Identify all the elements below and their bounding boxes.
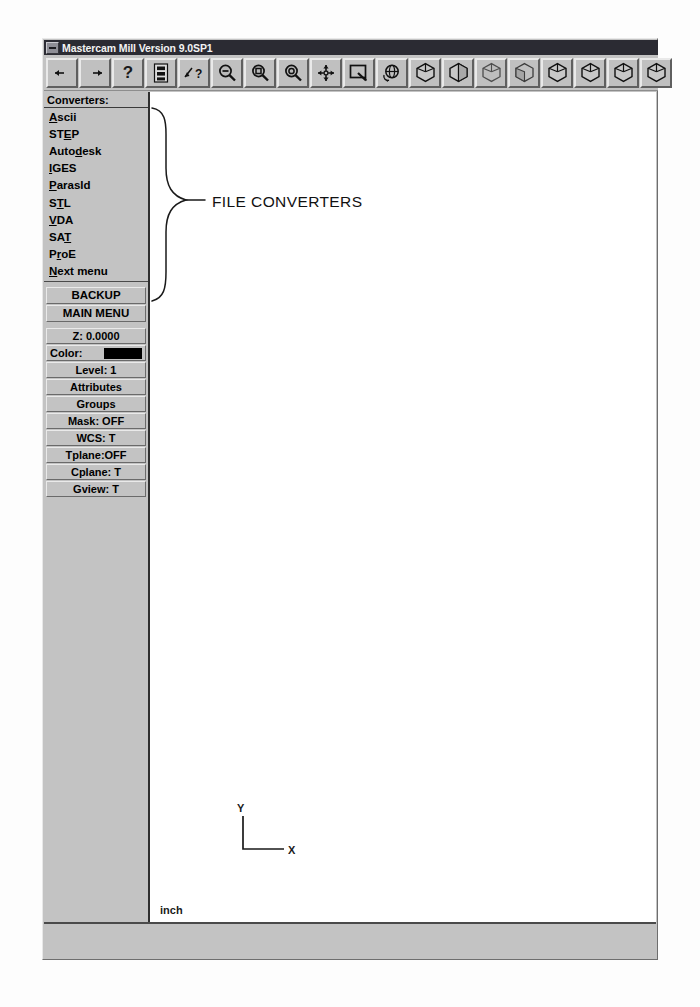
- status-z-depth[interactable]: Z: 0.0000: [46, 328, 146, 344]
- cube-isometric-icon: [415, 62, 436, 83]
- status-cplane[interactable]: Cplane: T: [46, 464, 146, 480]
- view-left-button[interactable]: [607, 58, 639, 88]
- context-help-button[interactable]: ?: [178, 58, 210, 88]
- help-pointer-icon: ?: [183, 64, 205, 82]
- magnifier-target-icon: [283, 63, 303, 83]
- four-way-arrow-icon: [316, 63, 336, 83]
- zoom-out-button[interactable]: [211, 58, 243, 88]
- view-bottom-button[interactable]: [508, 58, 540, 88]
- menu-item-label: Ascii: [49, 111, 77, 123]
- right-arrow-icon: [87, 67, 103, 79]
- cube-top-icon: [547, 62, 568, 83]
- status-wcs[interactable]: WCS: T: [46, 430, 146, 446]
- magnifier-minus-icon: [217, 63, 237, 83]
- menu-item-label: Autodesk: [49, 145, 101, 157]
- axis-lines-icon: [235, 802, 305, 864]
- menu-item-iges[interactable]: IGES: [44, 160, 148, 177]
- axis-gnomon: Y X: [235, 802, 305, 864]
- toolbar: ? ?: [44, 55, 658, 91]
- menu-item-label: Next menu: [49, 265, 108, 277]
- document-list-icon: [153, 63, 169, 83]
- menu-item-label: ProE: [49, 248, 76, 260]
- menu-item-proe[interactable]: ProE: [44, 246, 148, 263]
- status-mask[interactable]: Mask: OFF: [46, 413, 146, 429]
- svg-text:?: ?: [195, 67, 202, 81]
- view-isometric-button[interactable]: [409, 58, 441, 88]
- menu-item-stl[interactable]: STL: [44, 194, 148, 211]
- menu-item-step[interactable]: STEP: [44, 125, 148, 142]
- menu-item-label: VDA: [49, 214, 73, 226]
- bottom-status-bar: [44, 922, 656, 958]
- main-menu-button[interactable]: MAIN MENU: [46, 305, 146, 322]
- backup-button[interactable]: BACKUP: [46, 287, 146, 304]
- status-groups[interactable]: Groups: [46, 396, 146, 412]
- menu-item-label: STL: [49, 197, 71, 209]
- menu-item-parasld[interactable]: Parasld: [44, 177, 148, 194]
- dynamic-rotate-button[interactable]: [376, 58, 408, 88]
- status-color[interactable]: Color:: [46, 345, 146, 361]
- converter-menu-list: Ascii STEP Autodesk IGES Parasld STL VDA…: [44, 108, 148, 282]
- menu-item-ascii[interactable]: Ascii: [44, 108, 148, 125]
- status-gview[interactable]: Gview: T: [46, 481, 146, 497]
- help-button[interactable]: ?: [112, 58, 144, 88]
- screen-repaint-icon: [349, 64, 369, 82]
- menu-item-label: STEP: [49, 128, 79, 140]
- cube-left-icon: [613, 62, 634, 83]
- graphics-drawing-area[interactable]: Y X inch: [150, 92, 656, 922]
- left-arrow-icon: [54, 67, 70, 79]
- system-menu-icon[interactable]: [46, 42, 59, 54]
- menu-header: Converters:: [44, 92, 148, 108]
- view-front-button[interactable]: [442, 58, 474, 88]
- menu-column: Converters: Ascii STEP Autodesk IGES Par…: [44, 92, 150, 922]
- window-title: Mastercam Mill Version 9.0SP1: [62, 42, 213, 54]
- zoom-target-button[interactable]: [277, 58, 309, 88]
- title-bar: Mastercam Mill Version 9.0SP1: [44, 40, 658, 55]
- view-back-button[interactable]: [475, 58, 507, 88]
- status-level[interactable]: Level: 1: [46, 362, 146, 378]
- view-axonometric-button[interactable]: [640, 58, 672, 88]
- cube-axonometric-icon: [646, 62, 667, 83]
- fit-screen-button[interactable]: [310, 58, 342, 88]
- application-window: Mastercam Mill Version 9.0SP1 ?: [42, 38, 658, 960]
- menu-item-label: Parasld: [49, 179, 91, 191]
- question-mark-icon: ?: [123, 64, 133, 81]
- back-arrow-button[interactable]: [46, 58, 78, 88]
- menu-item-vda[interactable]: VDA: [44, 211, 148, 228]
- magnifier-window-icon: [250, 63, 270, 83]
- repaint-button[interactable]: [343, 58, 375, 88]
- cube-back-icon: [481, 62, 502, 83]
- menu-item-next-menu[interactable]: Next menu: [44, 263, 148, 280]
- status-tplane[interactable]: Tplane:OFF: [46, 447, 146, 463]
- rotate-sphere-icon: [381, 63, 403, 83]
- menu-item-sat[interactable]: SAT: [44, 228, 148, 245]
- zoom-window-button[interactable]: [244, 58, 276, 88]
- cube-right-icon: [580, 62, 601, 83]
- forward-arrow-button[interactable]: [79, 58, 111, 88]
- cube-front-icon: [448, 62, 469, 83]
- status-color-label: Color:: [50, 347, 82, 359]
- view-top-button[interactable]: [541, 58, 573, 88]
- color-swatch[interactable]: [104, 348, 142, 359]
- view-right-button[interactable]: [574, 58, 606, 88]
- cube-bottom-icon: [514, 62, 535, 83]
- menu-item-label: SAT: [49, 231, 71, 243]
- status-attributes[interactable]: Attributes: [46, 379, 146, 395]
- unit-indicator: inch: [160, 904, 183, 916]
- menu-item-label: IGES: [49, 162, 77, 174]
- menu-item-autodesk[interactable]: Autodesk: [44, 142, 148, 159]
- file-list-button[interactable]: [145, 58, 177, 88]
